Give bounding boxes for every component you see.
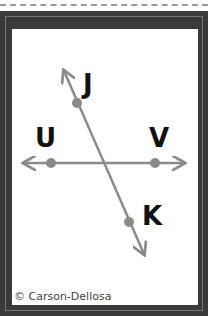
point-v	[150, 158, 160, 168]
copyright: © Carson-Dellosa	[14, 290, 111, 303]
label-u: U	[35, 125, 56, 151]
point-u	[46, 158, 56, 168]
point-j	[72, 98, 82, 108]
label-v: V	[149, 125, 169, 151]
lines-diagram	[0, 0, 208, 316]
point-k	[124, 217, 134, 227]
label-k: K	[142, 203, 162, 229]
label-j: J	[83, 71, 93, 97]
